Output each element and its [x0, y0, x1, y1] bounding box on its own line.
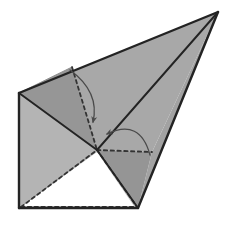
faces-group: [19, 12, 218, 208]
diagram-canvas: [0, 0, 235, 235]
polyhedron-figure: [0, 0, 235, 235]
